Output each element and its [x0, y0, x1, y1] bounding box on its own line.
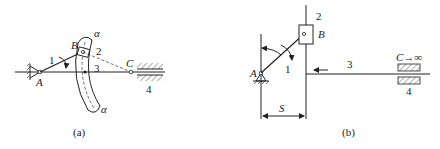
panel-b: A B C→∞ 1 2 3 4 S (b)	[249, 5, 430, 139]
caption-b: (b)	[342, 126, 355, 139]
label-link1-a: 1	[49, 54, 55, 66]
label-link4-a: 4	[146, 83, 152, 95]
label-link4-b: 4	[406, 85, 412, 97]
label-b-b: B	[318, 28, 325, 40]
label-s-b: S	[279, 102, 285, 114]
curve-point	[84, 71, 87, 74]
label-link2-b: 2	[316, 10, 322, 22]
dashed-bc	[83, 52, 131, 72]
label-link3-a: 3	[94, 62, 100, 74]
mechanism-diagram: A B C 1 2 3 4 α α (a)	[0, 0, 440, 149]
caption-a: (a)	[73, 126, 86, 139]
pivot-c-a	[129, 70, 133, 74]
label-link2-a: 2	[96, 45, 102, 57]
label-b-a: B	[71, 39, 78, 51]
rotation-arrow-b	[281, 45, 292, 60]
link-1-b	[261, 34, 304, 73]
angle-arc-b	[262, 48, 281, 55]
label-alpha-bottom: α	[101, 103, 107, 115]
panel-a: A B C 1 2 3 4 α α (a)	[15, 27, 165, 139]
pivot-b-b	[302, 32, 305, 35]
label-link1-b: 1	[285, 63, 291, 75]
label-c-a: C	[126, 57, 134, 69]
label-a-a: A	[35, 76, 43, 88]
slider-2-b	[299, 25, 313, 44]
label-link3-b: 3	[347, 58, 353, 70]
label-alpha-top: α	[94, 27, 100, 39]
label-c-inf-b: C→∞	[396, 51, 422, 63]
label-a-b: A	[249, 67, 257, 79]
